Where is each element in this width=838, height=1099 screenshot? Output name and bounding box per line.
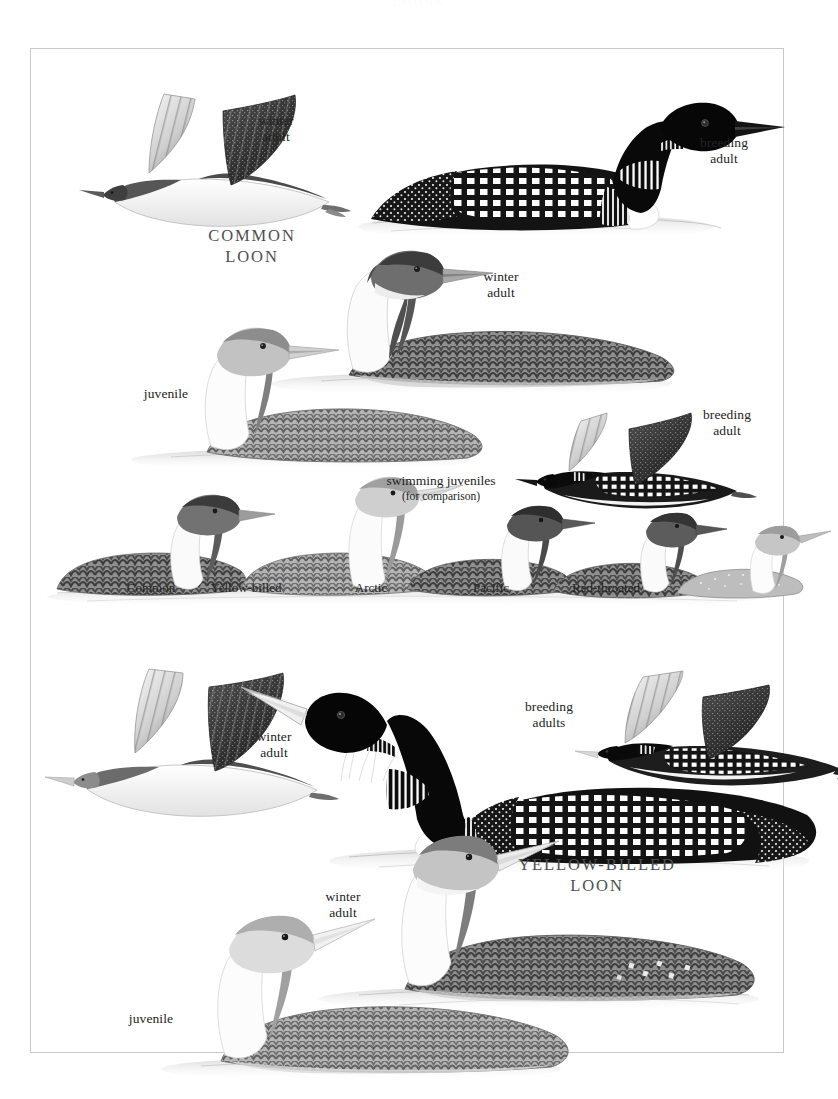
label-common-flying-winter: winter adult	[231, 113, 321, 146]
comparison-heading: swimming juveniles (for comparison)	[341, 473, 541, 504]
species-name-common-loon: COMMON LOON	[187, 225, 317, 267]
label-ybl-swim-breeding: breeding adults	[501, 699, 597, 732]
label-ybl-swim-winter: winter adult	[298, 889, 388, 922]
comparison-subheading-text: (for comparison)	[341, 490, 541, 504]
block-divider	[41, 613, 773, 614]
comparison-name-arctic: Arctic	[316, 580, 426, 596]
label-common-swim-winter: winter adult	[456, 269, 546, 302]
label-ybl-flying-winter: winter adult	[229, 729, 319, 762]
comparison-name-red-throated: Red-throated	[536, 580, 676, 596]
running-head: LOONS	[0, 0, 838, 7]
comparison-name-pacific: Pacific	[436, 580, 546, 596]
comparison-heading-text: swimming juveniles	[386, 473, 495, 488]
label-common-swim-breeding: breeding adult	[676, 135, 772, 168]
label-ybl-swim-juvenile: juvenile	[106, 1011, 196, 1027]
comparison-name-yellow-billed: Yellow-billed	[181, 580, 311, 596]
label-common-swim-juvenile: juvenile	[121, 386, 211, 402]
plate-frame: winter adult breeding adult COMMON LOON …	[30, 48, 784, 1053]
plate-artwork	[31, 49, 783, 1052]
label-common-flying-breeding: breeding adult	[679, 407, 775, 440]
species-name-yellow-billed-loon: YELLOW-BILLED LOON	[499, 854, 695, 896]
